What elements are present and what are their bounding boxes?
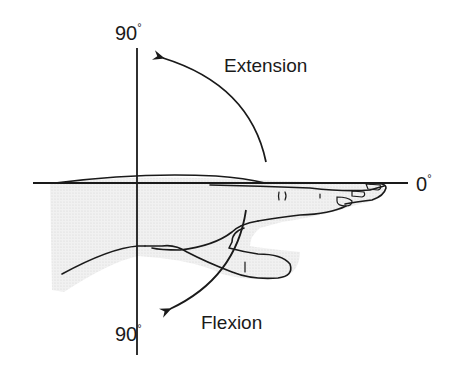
neutral-angle-label: 0° [416,172,432,195]
knuckle-crease [279,192,280,200]
top-angle-label: 90° [115,21,142,44]
extension-label: Extension [224,55,307,76]
flexion-label: Flexion [201,312,262,333]
wrist-rom-diagram: 90° 90° 0° Extension Flexion [0,0,460,374]
